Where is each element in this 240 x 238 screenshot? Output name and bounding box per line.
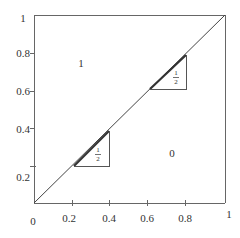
y-label-0.4: 0.4 — [16, 123, 30, 135]
y-label-0.6: 0.6 — [16, 85, 30, 97]
region-label-upper: 1 — [78, 57, 84, 69]
diagram-canvas: 1 2 1 2 1 0 1 0.8 0.6 0.4 0.2 0 0.2 0.4 … — [0, 0, 240, 238]
triangle-upper-denominator: 2 — [174, 78, 178, 86]
x-label-0.8: 0.8 — [178, 212, 192, 224]
triangle-upper-numerator: 1 — [174, 69, 178, 77]
triangle-lower-numerator: 1 — [96, 146, 100, 154]
diagonal-line — [34, 15, 225, 203]
y-label-1: 1 — [20, 12, 26, 24]
y-label-0.2: 0.2 — [16, 171, 30, 183]
x-label-0.6: 0.6 — [140, 212, 154, 224]
y-label-0.8: 0.8 — [16, 47, 30, 59]
slope-triangle-lower: 1 2 — [74, 131, 110, 167]
x-label-0: 0 — [30, 215, 36, 227]
x-label-0.4: 0.4 — [102, 212, 116, 224]
x-label-0.2: 0.2 — [62, 212, 76, 224]
y-axis-ticks — [30, 54, 36, 167]
region-label-lower: 0 — [169, 147, 175, 159]
triangle-lower-denominator: 2 — [96, 155, 100, 163]
x-label-1: 1 — [226, 208, 232, 220]
slope-triangle-upper: 1 2 — [150, 55, 187, 90]
